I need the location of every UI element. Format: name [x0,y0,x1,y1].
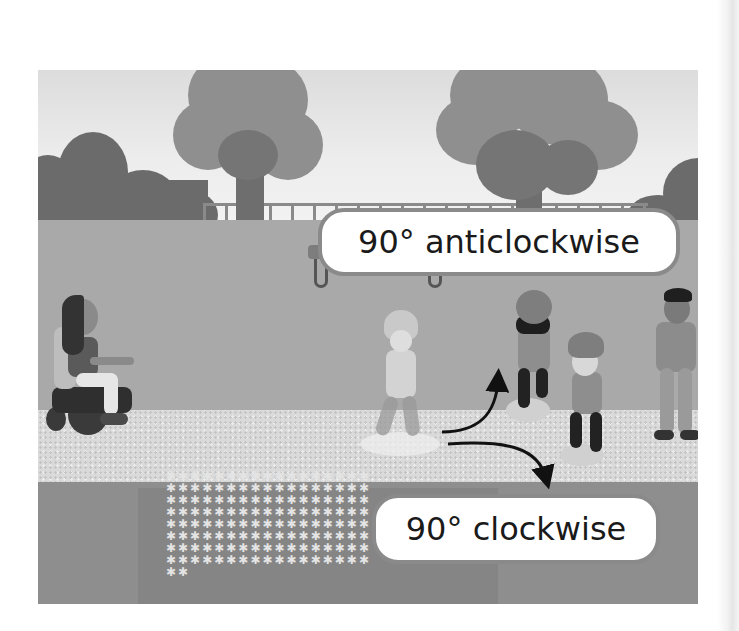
anticlockwise-arrow-icon [442,380,498,432]
clockwise-arrow-icon [448,443,546,478]
label-anticlockwise: 90° anticlockwise [318,208,680,276]
label-clockwise: 90° clockwise [372,494,660,564]
page-edge [717,0,739,631]
